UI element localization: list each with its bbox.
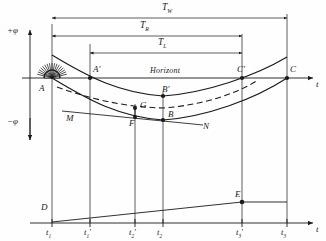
axis-label-phi-negative: −φ (7, 117, 18, 126)
axis-label-t-upper: t (316, 80, 319, 89)
point-label-B: B (168, 110, 174, 119)
dot-Ap (88, 76, 92, 80)
point-label-Cp: C′ (237, 65, 245, 74)
tick-label-t1p: t1′ (84, 228, 91, 239)
point-label-Ap: A′ (93, 65, 100, 74)
dimension-lines (52, 18, 287, 53)
axis-label-t-lower: t (316, 225, 319, 234)
tick-label-t3p: t3′ (236, 228, 243, 239)
upper-curve (52, 55, 287, 96)
point-label-E: E (235, 190, 241, 199)
dot-E (240, 200, 245, 205)
dim-label-TL: TL (158, 38, 167, 50)
axis-label-phi-positive: +φ (7, 26, 18, 35)
tick-label-t2: t2 (157, 228, 162, 239)
dim-label-TW: TW (162, 3, 172, 15)
point-markers (88, 76, 289, 204)
tick-label-t1: t1 (46, 228, 51, 239)
point-label-M: M (66, 114, 74, 123)
point-label-G: G (140, 101, 147, 110)
point-label-A: A (39, 84, 45, 93)
tick-label-t3: t3 (281, 228, 286, 239)
point-label-D: D (41, 203, 48, 212)
point-label-Bp: B′ (162, 85, 169, 94)
horizon-label: Horizont (150, 67, 180, 75)
dot-Cp (240, 76, 244, 80)
dot-C (285, 76, 289, 80)
diagram-canvas: TW TR TL +φ −φ t t Horizont A A′ B B′ C … (0, 0, 326, 241)
dim-label-TR: TR (140, 21, 149, 33)
dot-B (161, 118, 165, 122)
point-label-F: F (129, 119, 135, 128)
tick-label-t2p: t2′ (129, 228, 136, 239)
sunrise-icon (37, 63, 67, 78)
point-label-C: C (290, 65, 296, 74)
point-label-N: N (203, 122, 209, 131)
rising-line-DE (52, 202, 287, 222)
dot-Bp (161, 94, 165, 98)
dot-G (133, 106, 137, 110)
dashed-curve (57, 80, 258, 108)
